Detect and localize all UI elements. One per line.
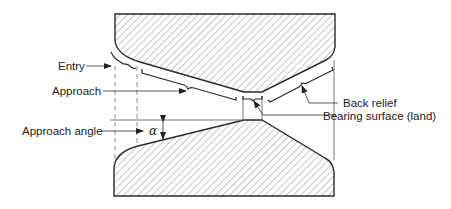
die-cross-section-diagram: Entry Approach Approach angle α Back rel…	[0, 0, 451, 209]
label-entry: Entry	[58, 60, 85, 72]
label-approach: Approach	[52, 85, 101, 97]
label-approach-angle: Approach angle	[22, 125, 103, 137]
top-die	[115, 14, 335, 92]
label-alpha: α	[149, 124, 157, 138]
bottom-die	[114, 120, 334, 196]
label-bearing-surface: Bearing surface (land)	[323, 110, 436, 122]
back-relief-leader	[302, 86, 338, 103]
bearing-brace	[243, 96, 262, 101]
label-back-relief: Back relief	[343, 97, 397, 109]
